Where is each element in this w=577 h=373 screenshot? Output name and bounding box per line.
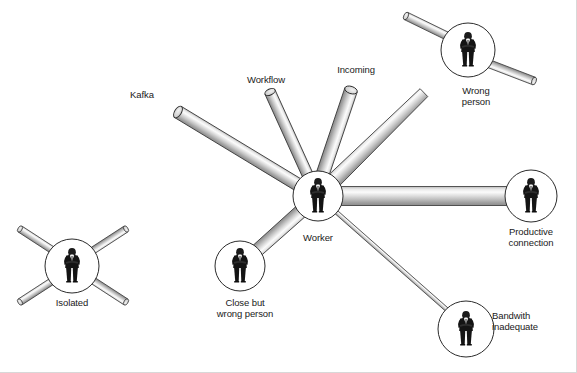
node-wrong-person[interactable] <box>441 23 495 77</box>
diagram-svg <box>0 0 577 373</box>
node-worker[interactable] <box>293 171 343 221</box>
label-close-but-wrong-person: Close but wrong person <box>217 297 273 319</box>
connection-worker-to-productive-connection <box>318 187 508 206</box>
isolated-stub-top-right <box>91 225 130 254</box>
label-kafka: Kafka <box>130 89 154 100</box>
isolated-stub-bottom-right <box>91 277 130 306</box>
label-worker: Worker <box>303 232 333 243</box>
label-incoming: Incoming <box>337 64 375 75</box>
node-close-but-wrong-person[interactable] <box>215 241 265 291</box>
isolated-stub-top-left <box>16 225 55 254</box>
label-bandwith-inadequate: Bandwith inadequate <box>492 310 538 332</box>
label-workflow: Workflow <box>247 74 285 85</box>
node-productive-connection[interactable] <box>505 170 557 222</box>
node-bandwith-inadequate[interactable] <box>438 301 494 357</box>
wrong-person-stub-right <box>488 60 538 85</box>
wrong-person-stub-upper-left <box>402 11 449 39</box>
node-isolated[interactable] <box>45 239 99 293</box>
diagram-canvas: Kafka Workflow Incoming Wrong person Pro… <box>0 0 577 373</box>
label-isolated: Isolated <box>56 297 88 308</box>
label-wrong-person: Wrong person <box>462 85 490 107</box>
label-productive-connection: Productive connection <box>509 226 554 248</box>
